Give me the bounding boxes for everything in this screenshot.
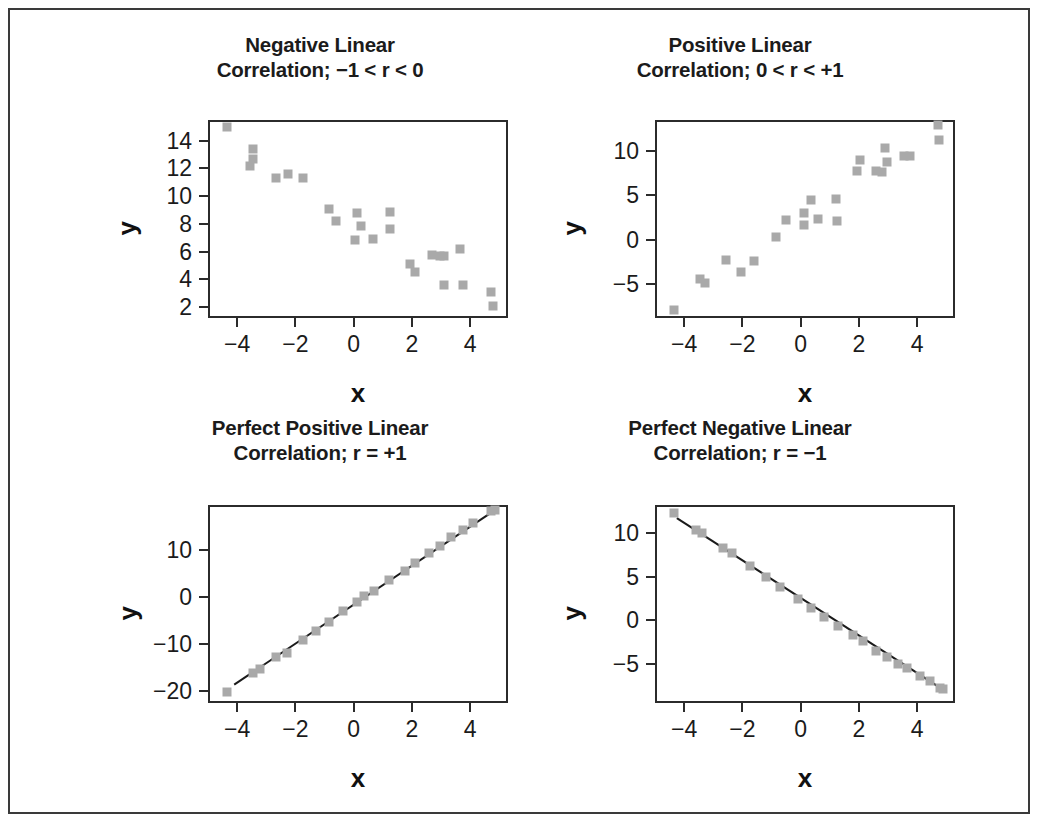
title-line-1: Positive Linear	[530, 32, 950, 57]
y-axis-tick	[199, 690, 208, 692]
title-line-2: Correlation; r = +1	[110, 440, 530, 465]
data-point	[793, 595, 802, 604]
data-point	[905, 151, 914, 160]
data-point	[490, 505, 499, 514]
x-axis-tick-label: −4	[224, 331, 250, 358]
data-point	[669, 508, 678, 517]
y-axis-tick-label: −5	[559, 271, 639, 298]
data-point	[814, 214, 823, 223]
panel-negative-linear: Negative Linear Correlation; −1 < r < 0 …	[110, 30, 530, 410]
panel-perfect-positive-linear: Perfect Positive Linear Correlation; r =…	[110, 413, 530, 803]
data-point	[856, 155, 865, 164]
y-axis-tick	[199, 549, 208, 551]
y-axis-tick	[646, 239, 655, 241]
x-axis-tick	[800, 318, 802, 327]
y-axis-tick	[199, 643, 208, 645]
panel-perfect-negative-linear: Perfect Negative Linear Correlation; r =…	[530, 413, 950, 803]
data-point	[435, 541, 444, 550]
y-axis-label: y	[557, 597, 588, 621]
x-axis-tick	[469, 318, 471, 327]
x-axis-tick-label: 2	[852, 331, 865, 358]
panel-title-perfect-negative-linear: Perfect Negative Linear Correlation; r =…	[530, 415, 950, 465]
plot-area-perfect-negative-linear: −50510−4−2024	[655, 505, 955, 703]
x-axis-tick	[800, 703, 802, 712]
data-point	[882, 652, 891, 661]
data-point	[722, 256, 731, 265]
plot-area-negative-linear: 2468101214−4−2024	[208, 120, 508, 318]
data-point	[799, 209, 808, 218]
data-point	[833, 217, 842, 226]
data-point	[719, 543, 728, 552]
y-axis-tick	[646, 619, 655, 621]
data-point	[311, 627, 320, 636]
data-point	[400, 567, 409, 576]
panel-title-perfect-positive-linear: Perfect Positive Linear Correlation; r =…	[110, 415, 530, 465]
data-point	[853, 166, 862, 175]
y-axis-tick	[199, 167, 208, 169]
title-line-2: Correlation; −1 < r < 0	[110, 57, 530, 82]
data-point	[368, 235, 377, 244]
data-point	[881, 144, 890, 153]
x-axis-tick	[469, 703, 471, 712]
panel-positive-linear: Positive Linear Correlation; 0 < r < +1 …	[530, 30, 950, 410]
title-line-1: Perfect Negative Linear	[530, 415, 950, 440]
data-point	[222, 122, 231, 131]
data-point	[878, 168, 887, 177]
data-point	[806, 195, 815, 204]
y-axis-tick-label: 10	[559, 519, 639, 546]
data-point	[458, 525, 467, 534]
data-point	[249, 145, 258, 154]
y-axis-tick-label: 6	[112, 238, 192, 265]
data-point	[894, 659, 903, 668]
y-axis-tick-label: 14	[112, 127, 192, 154]
title-line-2: Correlation; r = −1	[530, 440, 950, 465]
data-point	[806, 603, 815, 612]
title-line-2: Correlation; 0 < r < +1	[530, 57, 950, 82]
data-point	[697, 528, 706, 537]
data-point	[934, 135, 943, 144]
x-axis-tick	[236, 703, 238, 712]
y-axis-tick	[646, 576, 655, 578]
y-axis-tick-label: 4	[112, 266, 192, 293]
data-point	[736, 267, 745, 276]
data-point	[447, 533, 456, 542]
y-axis-tick	[199, 596, 208, 598]
data-point	[831, 195, 840, 204]
data-point	[750, 257, 759, 266]
data-point	[933, 121, 942, 130]
y-axis-tick-label: 10	[112, 536, 192, 563]
x-axis-tick-label: 0	[347, 716, 360, 743]
x-axis-tick-label: −4	[671, 331, 697, 358]
data-point	[352, 208, 361, 217]
data-point	[298, 636, 307, 645]
x-axis-tick-label: −4	[224, 716, 250, 743]
x-axis-tick-label: −4	[671, 716, 697, 743]
x-axis-tick-label: 4	[911, 716, 924, 743]
x-axis-tick	[683, 703, 685, 712]
data-point	[384, 575, 393, 584]
x-axis-label: x	[344, 763, 372, 794]
x-axis-tick	[294, 318, 296, 327]
data-point	[284, 170, 293, 179]
y-axis-tick-label: 5	[559, 563, 639, 590]
data-point	[469, 519, 478, 528]
x-axis-label: x	[791, 378, 819, 409]
data-point	[486, 288, 495, 297]
x-axis-tick	[858, 703, 860, 712]
plot-area-positive-linear: −50510−4−2024	[655, 120, 955, 318]
y-axis-label: y	[112, 212, 143, 236]
y-axis-tick	[199, 251, 208, 253]
data-point	[298, 174, 307, 183]
y-axis-tick	[646, 532, 655, 534]
plot-frame	[655, 120, 955, 318]
x-axis-tick-label: 4	[464, 716, 477, 743]
data-point	[222, 688, 231, 697]
x-axis-label: x	[791, 763, 819, 794]
y-axis-tick-label: −10	[112, 631, 192, 658]
data-point	[859, 637, 868, 646]
data-point	[282, 649, 291, 658]
x-axis-tick	[858, 318, 860, 327]
y-axis-tick	[199, 140, 208, 142]
x-axis-tick	[741, 703, 743, 712]
data-point	[916, 671, 925, 680]
